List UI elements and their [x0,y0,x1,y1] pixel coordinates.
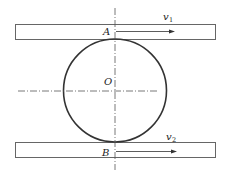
label-v2-subscript: 2 [172,136,176,144]
bottom-plate [16,143,216,158]
arrowhead-bottom-icon [171,150,177,154]
diagram-canvas: A B O v 1 v 2 [0,0,230,175]
arrowhead-top-icon [169,30,175,34]
label-center-o: O [104,76,112,87]
label-point-b: B [101,147,109,158]
top-plate [16,25,216,40]
label-v1-subscript: 1 [169,16,173,24]
label-point-a: A [102,26,110,37]
cylinder-circle [64,39,167,142]
